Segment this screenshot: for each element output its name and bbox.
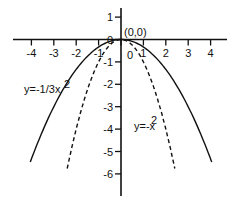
superscript: 2 (64, 78, 70, 90)
chart-svg: -4-3-2-11234010-1-2-3-4-5-6(0,0)y=-1/3x2… (0, 0, 236, 204)
y-tick-label: -2 (103, 78, 113, 90)
x-tick-label: -3 (49, 47, 59, 59)
y-tick-label: -4 (103, 123, 113, 135)
x-tick-label: 2 (163, 47, 169, 59)
x-tick-label: 4 (208, 47, 214, 59)
x-tick-label: 3 (185, 47, 191, 59)
origin-label: (0,0) (124, 26, 147, 38)
x-tick-label: -1 (94, 47, 104, 59)
solid-curve-label: y=-1/3x (24, 83, 61, 95)
y-tick-label: -6 (103, 168, 113, 180)
y-tick-label: 1 (107, 11, 113, 23)
superscript: 2 (151, 114, 157, 126)
x-tick-label: -4 (27, 47, 37, 59)
parabola-chart: -4-3-2-11234010-1-2-3-4-5-6(0,0)y=-1/3x2… (0, 0, 236, 204)
y-tick-label: -1 (103, 56, 113, 68)
y-tick-label: -3 (103, 101, 113, 113)
x-tick-label: -2 (71, 47, 81, 59)
y-tick-label: -5 (103, 146, 113, 158)
x-tick-label: 0 (127, 49, 133, 61)
